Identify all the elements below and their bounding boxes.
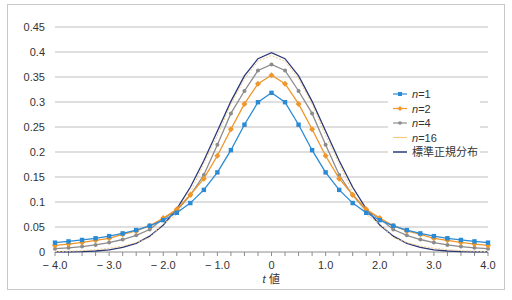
legend-marker [398, 121, 402, 125]
y-tick-label: 0.4 [30, 46, 45, 58]
data-point [310, 111, 314, 115]
data-point [269, 91, 273, 95]
data-point [486, 240, 490, 244]
legend-label: n=16 [412, 132, 437, 144]
data-point [175, 211, 179, 215]
x-tick-label: − 4.0 [43, 259, 68, 271]
data-point [202, 188, 206, 192]
data-point [242, 89, 246, 93]
line-chart: 00.050.10.150.20.250.30.350.40.45 − 4.0−… [0, 0, 512, 300]
data-point [296, 123, 300, 127]
data-point [148, 224, 152, 228]
data-point [188, 201, 192, 205]
legend: n=1n=2n=4n=16標準正規分布 [388, 84, 480, 160]
y-tick-label: 0.05 [24, 221, 45, 233]
data-point [418, 238, 422, 242]
data-point [405, 228, 409, 232]
data-point [472, 239, 476, 243]
x-tick-label: − 2.0 [151, 259, 176, 271]
data-point [283, 69, 287, 73]
y-tick-label: 0.3 [30, 96, 45, 108]
data-point [297, 89, 301, 93]
data-point [256, 100, 260, 104]
x-tick-label: 0 [268, 259, 274, 271]
data-point [364, 211, 368, 215]
y-tick-label: 0.2 [30, 146, 45, 158]
data-point [161, 218, 165, 222]
data-point [337, 188, 341, 192]
x-axis-label: t 値 [262, 273, 279, 285]
data-point [80, 238, 84, 242]
data-point [323, 170, 327, 174]
data-point [445, 236, 449, 240]
data-point [107, 234, 111, 238]
data-point [94, 243, 98, 247]
data-point [242, 123, 246, 127]
data-point [229, 111, 233, 115]
data-point [324, 143, 328, 147]
data-point [378, 218, 382, 222]
legend-label: n=4 [412, 117, 431, 129]
data-point [459, 238, 463, 242]
data-point [445, 243, 449, 247]
data-point [310, 148, 314, 152]
y-tick-label: 0.1 [30, 196, 45, 208]
y-tick-label: 0.15 [24, 171, 45, 183]
legend-label: n=2 [412, 103, 431, 115]
x-tick-label: 4.0 [480, 259, 495, 271]
data-point [323, 153, 329, 159]
data-point [66, 239, 70, 243]
data-point [350, 201, 354, 205]
x-axis: − 4.0− 3.0− 2.0− 1.001.02.03.04.0 [43, 252, 496, 271]
data-point [53, 240, 57, 244]
data-point [134, 233, 138, 237]
legend-label: n=1 [412, 88, 431, 100]
data-point [270, 63, 274, 67]
legend-label: 標準正規分布 [412, 145, 478, 158]
y-tick-label: 0.35 [24, 71, 45, 83]
data-point [215, 143, 219, 147]
y-tick-label: 0.45 [24, 21, 45, 33]
y-axis-ticks: 00.050.10.150.20.250.30.350.40.45 [24, 21, 45, 258]
x-tick-label: 2.0 [372, 259, 387, 271]
data-point [215, 170, 219, 174]
x-tick-label: 3.0 [426, 259, 441, 271]
data-point [120, 231, 124, 235]
data-point [256, 69, 260, 73]
data-point [121, 238, 125, 242]
data-point [283, 100, 287, 104]
data-point [405, 233, 409, 237]
x-tick-label: − 1.0 [205, 259, 230, 271]
data-point [214, 153, 220, 159]
data-point [93, 236, 97, 240]
data-point [432, 234, 436, 238]
y-tick-label: 0 [39, 246, 45, 258]
data-point [229, 148, 233, 152]
x-tick-label: − 3.0 [97, 259, 122, 271]
data-point [134, 228, 138, 232]
legend-marker [398, 92, 402, 96]
y-tick-label: 0.25 [24, 121, 45, 133]
x-tick-label: 1.0 [318, 259, 333, 271]
data-point [418, 231, 422, 235]
data-point [391, 224, 395, 228]
